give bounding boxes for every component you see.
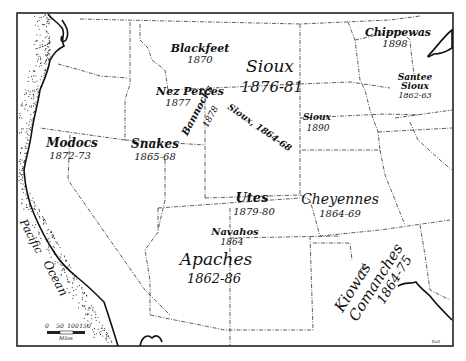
stipple-dot [42, 40, 43, 41]
tribe-name: Sioux [246, 56, 294, 76]
stipple-dot [100, 334, 101, 335]
stipple-dot [43, 224, 44, 225]
stipple-dot [43, 75, 44, 76]
stipple-dot [61, 265, 62, 266]
stipple-dot [37, 54, 38, 55]
stipple-dot [26, 204, 27, 205]
stipple-dot [18, 180, 19, 181]
stipple-dot [37, 213, 38, 214]
stipple-dot [38, 26, 39, 27]
stipple-dot [85, 314, 86, 315]
stipple-dot [88, 310, 89, 311]
stipple-dot [36, 40, 37, 41]
stipple-dot [24, 153, 25, 154]
scale-tick-100: 100 [67, 322, 79, 329]
tribe-labels: Blackfeet 1870 Sioux 1876-81 Chippewas 1… [45, 26, 432, 324]
scale-tick-50: 50 [56, 322, 64, 329]
stipple-dot [76, 294, 77, 295]
stipple-dot [106, 332, 107, 333]
stipple-dot [39, 232, 40, 233]
stipple-dot [104, 330, 105, 331]
stipple-dot [77, 286, 78, 287]
stipple-dot [22, 105, 23, 106]
stipple-dot [20, 152, 21, 153]
stipple-dot [25, 194, 26, 195]
stipple-dot [49, 41, 50, 42]
tribe-navahos: Navahos 1864 [210, 226, 259, 247]
stipple-dot [24, 161, 25, 162]
stipple-dot [47, 23, 48, 24]
tribe-chippewas: Chippewas 1898 [365, 26, 431, 49]
stipple-dot [19, 132, 20, 133]
stipple-dot [79, 285, 80, 286]
stipple-dot [26, 131, 27, 132]
stipple-dot [48, 229, 49, 230]
stipple-dot [47, 21, 48, 22]
stipple-dot [54, 247, 55, 248]
stipple-dot [19, 169, 20, 170]
scale-tick-0: 0 [45, 322, 49, 329]
stipple-dot [33, 103, 34, 104]
stipple-dot [49, 252, 50, 253]
stipple-dot [95, 312, 96, 313]
stipple-dot [82, 297, 83, 298]
tribe-sioux-1890: Sioux 1890 [303, 112, 331, 133]
stipple-dot [106, 338, 107, 339]
stipple-dot [72, 287, 73, 288]
stipple-dot [69, 281, 70, 282]
stipple-dot [37, 212, 38, 213]
stipple-dot [55, 241, 56, 242]
stipple-dot [21, 148, 22, 149]
stipple-dot [22, 166, 23, 167]
stipple-dot [47, 18, 48, 19]
stipple-dot [34, 44, 35, 45]
stipple-dot [19, 176, 20, 177]
stipple-dot [111, 342, 112, 343]
stipple-dot [22, 168, 23, 169]
stipple-dot [26, 92, 27, 93]
stipple-dot [34, 206, 35, 207]
stipple-dot [26, 148, 27, 149]
stipple-dot [48, 23, 49, 24]
stipple-dot [48, 19, 49, 20]
stipple-dot [48, 58, 49, 59]
stipple-dot [43, 218, 44, 219]
stipple-dot [41, 76, 42, 77]
stipple-dot [30, 208, 31, 209]
stipple-dot [48, 54, 49, 55]
stipple-dot [82, 292, 83, 293]
stipple-dot [58, 244, 59, 245]
stipple-dot [31, 211, 32, 212]
stipple-dot [108, 342, 109, 343]
ocean-label: Pacific Ocean [16, 216, 70, 298]
stipple-dot [47, 57, 48, 58]
stipple-dot [85, 301, 86, 302]
stipple-dot [60, 264, 61, 265]
stipple-dot [47, 230, 48, 231]
stipple-dot [50, 230, 51, 231]
stipple-dot [22, 159, 23, 160]
stipple-dot [42, 46, 43, 47]
stipple-dot [20, 115, 21, 116]
stipple-dot [37, 48, 38, 49]
stipple-dot [38, 92, 39, 93]
stipple-dot [51, 232, 52, 233]
stipple-dot [27, 133, 28, 134]
stipple-dot [28, 81, 29, 82]
tribe-sioux-main: Sioux 1876-81 [241, 56, 303, 96]
stipple-dot [33, 96, 34, 97]
tribe-years: 1877 [165, 97, 191, 108]
stipple-dot [92, 307, 93, 308]
stipple-dot [19, 117, 20, 118]
stipple-dot [46, 223, 47, 224]
stipple-dot [106, 335, 107, 336]
coastline [24, 14, 118, 346]
stipple-dot [33, 70, 34, 71]
stipple-dot [35, 48, 36, 49]
stipple-dot [72, 282, 73, 283]
stipple-dot [40, 34, 41, 35]
stipple-dot [29, 128, 30, 129]
stipple-dot [57, 242, 58, 243]
stipple-dot [64, 272, 65, 273]
stipple-dot [44, 70, 45, 71]
